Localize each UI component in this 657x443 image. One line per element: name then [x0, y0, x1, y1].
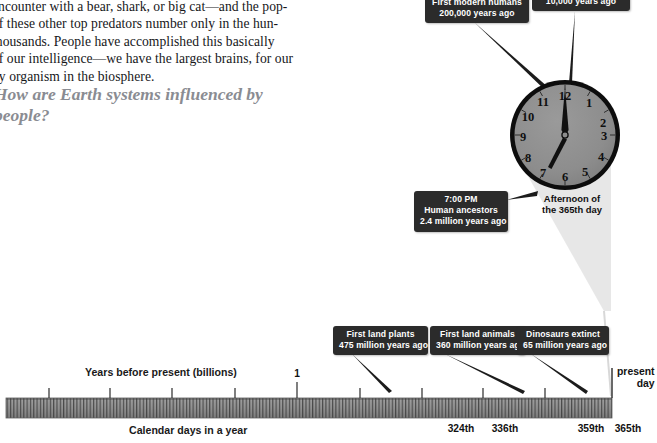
- callout-first-modern-humans[interactable]: First modern humans 200,000 years ago: [425, 0, 529, 23]
- clock-numeral-6: 6: [562, 170, 568, 185]
- present-day-line: present: [617, 366, 655, 378]
- clock-numeral-11: 11: [537, 95, 549, 110]
- callout-line: 475 million years ago: [339, 340, 422, 351]
- clock-numeral-1: 1: [586, 96, 592, 111]
- axis-label-calendar-days: Calendar days in a year: [129, 424, 247, 436]
- callout-line: Dinosaurs extinct: [523, 329, 603, 340]
- axis-tick-label-359th: 359th: [578, 423, 605, 434]
- axis-tick-label-324th: 324th: [448, 423, 475, 434]
- callout-line: First land plants: [339, 329, 422, 340]
- leader-first-land-animals: [445, 354, 525, 394]
- clock-numeral-3: 3: [601, 129, 607, 144]
- clock-numeral-8: 8: [525, 151, 531, 166]
- clock-caption-line: Afternoon of: [542, 193, 602, 204]
- axis-tick-label-1-billion: 1: [294, 368, 300, 379]
- callout-line: First land animals: [436, 329, 519, 340]
- callout-line: 7:00 PM: [420, 194, 502, 205]
- axis-tick-label-336th: 336th: [492, 423, 519, 434]
- callout-first-land-plants[interactable]: First land plants 475 million years ago: [333, 326, 428, 355]
- clock-numeral-12: 12: [559, 89, 572, 104]
- callout-end-of-last-ice-age[interactable]: End of last ice age 10,000 years ago: [532, 0, 630, 11]
- leader-first-land-plants: [352, 354, 392, 393]
- clock-caption: Afternoon of the 365th day: [542, 193, 602, 216]
- callout-line: First modern humans: [431, 0, 523, 8]
- leader-first-modern-humans: [474, 22, 549, 91]
- callout-line: 2.4 million years ago: [420, 216, 502, 227]
- leader-end-of-last-ice-age: [569, 11, 575, 83]
- callout-line: Human ancestors: [420, 205, 502, 216]
- clock-numeral-5: 5: [582, 165, 588, 180]
- present-day-label: present day: [617, 366, 655, 390]
- clock-caption-line: the 365th day: [542, 204, 602, 215]
- axis-label-years-before-present: Years before present (billions): [85, 366, 237, 378]
- present-day-line: day: [617, 378, 655, 390]
- clock-numeral-9: 9: [520, 130, 526, 145]
- callout-first-land-animals[interactable]: First land animals 360 million years ago: [430, 326, 525, 355]
- callout-line: 65 million years ago: [523, 340, 603, 351]
- timeline-figure-page: encounter with a bear, shark, or big cat…: [0, 0, 657, 443]
- callout-line: 10,000 years ago: [538, 0, 624, 7]
- callout-dinosaurs-extinct[interactable]: Dinosaurs extinct 65 million years ago: [517, 326, 609, 355]
- leader-dinosaurs-extinct: [531, 354, 588, 394]
- callout-line: 200,000 years ago: [431, 8, 523, 19]
- clock-numeral-4: 4: [598, 150, 604, 165]
- callout-human-ancestors[interactable]: 7:00 PM Human ancestors 2.4 million year…: [414, 191, 508, 232]
- timeline-bar: [6, 398, 612, 418]
- clock-numeral-10: 10: [522, 110, 535, 125]
- leader-human-ancestors: [506, 191, 538, 200]
- axis-tick-label-365th: 365th: [615, 423, 642, 434]
- callout-line: 360 million years ago: [436, 340, 519, 351]
- clock-numeral-7: 7: [540, 166, 546, 181]
